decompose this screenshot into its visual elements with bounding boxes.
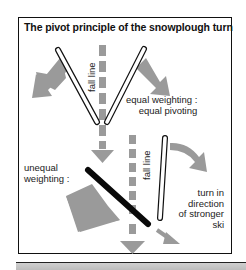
fall-line-label-top: fall line xyxy=(86,62,97,92)
turn-arrow-right-bottom xyxy=(170,143,207,172)
fall-line-label-bottom: fall line xyxy=(141,150,152,180)
equal-weighting-caption: equal weighting : equal pivoting xyxy=(126,95,197,116)
turn-direction-caption: turn in direction of stronger ski xyxy=(174,188,224,230)
unequal-weighting-caption: unequal weighting : xyxy=(24,163,69,184)
next-panel-edge xyxy=(16,262,246,270)
ski-right-bottom xyxy=(160,138,165,218)
pivot-arrow-right-top xyxy=(136,58,170,96)
turn-direction-arrow xyxy=(157,230,180,244)
